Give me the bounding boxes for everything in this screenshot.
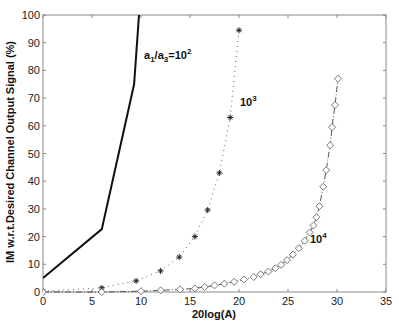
x-axis-label: 20log(A) [192, 308, 236, 320]
diamond-marker-icon [98, 289, 105, 296]
diamond-marker-icon [201, 284, 208, 291]
y-tick-label: 80 [28, 64, 40, 76]
diamond-marker-icon [327, 142, 334, 149]
star-marker-icon [192, 234, 198, 240]
x-tick-label: 20 [233, 295, 245, 307]
y-tick-label: 30 [28, 203, 40, 215]
y-tick-label: 100 [22, 9, 40, 21]
y-tick-label: 10 [28, 258, 40, 270]
x-tick-label: 15 [184, 295, 196, 307]
x-tick-label: 30 [331, 295, 343, 307]
star-marker-icon [227, 114, 233, 120]
diamond-marker-icon [334, 75, 341, 82]
series-2 [40, 75, 342, 295]
y-axis-label: IM w.r.t.Desired Channel Output Signal (… [4, 41, 16, 263]
chart: 051015202530350102030405060708090100 20l… [0, 0, 399, 332]
diamond-marker-icon [257, 271, 264, 278]
diamond-marker-icon [191, 285, 198, 292]
diamond-marker-icon [221, 280, 228, 287]
y-tick-label: 20 [28, 231, 40, 243]
diamond-marker-icon [231, 278, 238, 285]
diamond-marker-icon [313, 214, 320, 221]
annotation-10-3: 103 [240, 94, 257, 108]
plot-series [40, 15, 342, 296]
diamond-marker-icon [316, 203, 323, 210]
y-tick-label: 70 [28, 92, 40, 104]
y-tick-label: 50 [28, 148, 40, 160]
diamond-marker-icon [329, 124, 336, 131]
diamond-marker-icon [323, 167, 330, 174]
x-tick-label: 25 [282, 295, 294, 307]
star-marker-icon [216, 170, 222, 176]
diamond-marker-icon [157, 287, 164, 294]
star-marker-icon [236, 27, 242, 33]
x-tick-label: 10 [135, 295, 147, 307]
y-tick-label: 40 [28, 175, 40, 187]
star-marker-icon [205, 207, 211, 213]
star-marker-icon [133, 278, 139, 284]
diamond-marker-icon [310, 222, 317, 229]
y-tick-label: 0 [34, 286, 40, 298]
diamond-marker-icon [138, 288, 145, 295]
diamond-marker-icon [272, 265, 279, 272]
y-tick-label: 60 [28, 120, 40, 132]
plot-frame [43, 15, 386, 292]
y-tick-label: 90 [28, 37, 40, 49]
plot-axes: 051015202530350102030405060708090100 [22, 9, 392, 307]
star-marker-icon [158, 268, 164, 274]
diamond-marker-icon [265, 268, 272, 275]
x-tick-label: 35 [380, 295, 392, 307]
x-tick-label: 0 [40, 295, 46, 307]
diamond-marker-icon [250, 274, 257, 281]
diamond-marker-icon [332, 102, 339, 109]
x-tick-label: 5 [89, 295, 95, 307]
series-0 [43, 15, 139, 278]
diamond-marker-icon [240, 276, 247, 283]
diamond-marker-icon [320, 183, 327, 190]
annotation-10-4: 104 [310, 231, 327, 245]
diamond-marker-icon [211, 282, 218, 289]
annotation-a1-a3: a1/a3=102 [144, 47, 192, 64]
